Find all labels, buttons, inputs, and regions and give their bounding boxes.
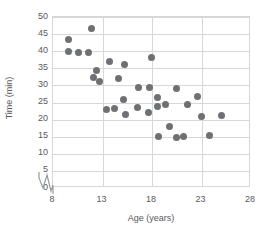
data-point bbox=[93, 67, 100, 74]
data-point bbox=[96, 78, 103, 85]
y-tick-label: 30 bbox=[28, 80, 48, 89]
y-tick-label: 40 bbox=[28, 46, 48, 55]
data-point bbox=[111, 105, 118, 112]
data-point bbox=[122, 111, 129, 118]
x-axis-ticks: 813182328 bbox=[0, 195, 265, 207]
y-tick-label: 50 bbox=[28, 12, 48, 21]
data-point bbox=[146, 84, 153, 91]
data-point bbox=[88, 25, 95, 32]
data-point bbox=[115, 75, 122, 82]
x-tick-label: 8 bbox=[40, 195, 64, 204]
y-axis-title: Time (min) bbox=[4, 63, 14, 133]
x-tick-label: 18 bbox=[139, 195, 163, 204]
data-point bbox=[85, 49, 92, 56]
data-point bbox=[180, 133, 187, 140]
x-tick-label: 23 bbox=[189, 195, 213, 204]
gridline-vertical bbox=[152, 17, 153, 186]
y-tick-label: 25 bbox=[28, 97, 48, 106]
gridline-vertical bbox=[202, 17, 203, 186]
x-axis-title: Age (years) bbox=[52, 213, 250, 223]
data-point bbox=[145, 109, 152, 116]
gridline-vertical bbox=[103, 17, 104, 186]
x-tick-label: 28 bbox=[238, 195, 262, 204]
data-point bbox=[103, 106, 110, 113]
gridline-horizontal bbox=[53, 103, 249, 104]
data-point bbox=[166, 123, 173, 130]
data-point bbox=[173, 85, 180, 92]
data-point bbox=[218, 112, 225, 119]
gridline-horizontal bbox=[53, 51, 249, 52]
gridline-horizontal bbox=[53, 137, 249, 138]
data-point bbox=[194, 93, 201, 100]
data-point bbox=[154, 103, 161, 110]
data-point bbox=[75, 49, 82, 56]
data-point bbox=[134, 104, 141, 111]
gridline-horizontal bbox=[53, 17, 249, 18]
gridline-horizontal bbox=[53, 120, 249, 121]
data-point bbox=[148, 54, 155, 61]
y-tick-label: 15 bbox=[28, 131, 48, 140]
data-point bbox=[65, 48, 72, 55]
data-point bbox=[106, 58, 113, 65]
data-point bbox=[155, 133, 162, 140]
data-point bbox=[184, 101, 191, 108]
gridline-horizontal bbox=[53, 34, 249, 35]
data-point bbox=[154, 94, 161, 101]
axis-break-icon bbox=[38, 172, 58, 194]
y-tick-label: 45 bbox=[28, 29, 48, 38]
y-tick-label: 35 bbox=[28, 63, 48, 72]
data-point bbox=[206, 132, 213, 139]
data-point bbox=[65, 36, 72, 43]
gridline-horizontal bbox=[53, 154, 249, 155]
scatter-chart: 05101520253035404550 813182328 Age (year… bbox=[0, 0, 265, 239]
data-point bbox=[120, 96, 127, 103]
gridline-horizontal bbox=[53, 68, 249, 69]
plot-area bbox=[52, 16, 250, 187]
y-tick-label: 10 bbox=[28, 148, 48, 157]
data-point bbox=[162, 101, 169, 108]
y-tick-label: 20 bbox=[28, 114, 48, 123]
data-point bbox=[135, 84, 142, 91]
gridline-horizontal bbox=[53, 171, 249, 172]
x-tick-label: 13 bbox=[90, 195, 114, 204]
